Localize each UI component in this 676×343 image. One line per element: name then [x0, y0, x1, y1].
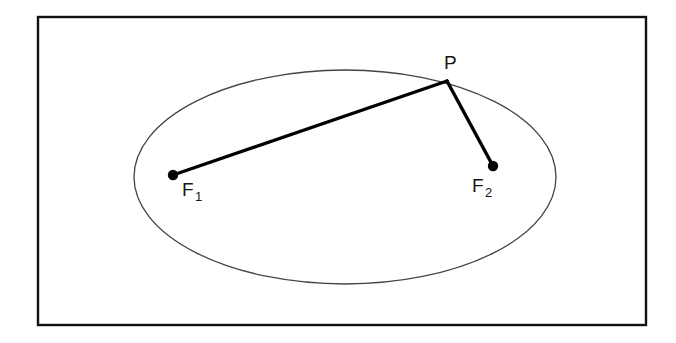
focus-label-f2-subscript: 2: [485, 185, 492, 200]
focus-label-f2: F: [472, 175, 484, 196]
ellipse-focal-radii-diagram: F 1 F 2 P: [0, 0, 676, 343]
focus-point-f2: [488, 161, 498, 171]
figure-root: F 1 F 2 P: [0, 0, 676, 343]
diagram-background: [0, 0, 676, 343]
focus-label-f1: F: [182, 179, 194, 200]
focus-point-f1: [168, 170, 178, 180]
focus-label-f1-subscript: 1: [195, 189, 202, 204]
point-label-p: P: [444, 52, 457, 73]
